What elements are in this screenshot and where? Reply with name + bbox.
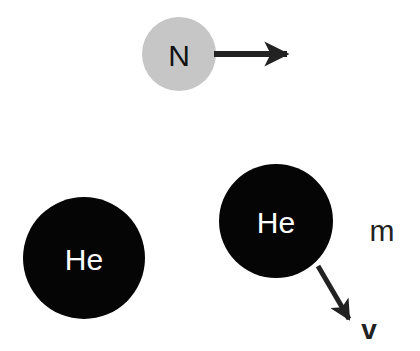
- velocity-label: v: [361, 314, 377, 345]
- mass-label: m: [370, 214, 395, 247]
- collision-diagram: N He He m v: [0, 0, 420, 351]
- helium-atom-left: He: [23, 197, 145, 319]
- nitrogen-label: N: [168, 39, 190, 72]
- nitrogen-molecule: N: [142, 17, 216, 91]
- helium-velocity-arrow-icon: [318, 266, 349, 319]
- helium-atom-right: He: [219, 164, 333, 278]
- helium-left-label: He: [65, 243, 103, 276]
- helium-right-label: He: [257, 206, 295, 239]
